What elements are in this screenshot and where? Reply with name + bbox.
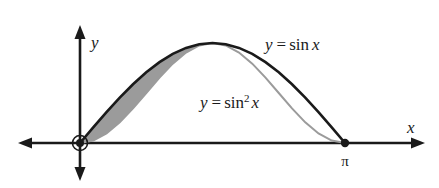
svg-text:y=sinx: y=sinx bbox=[263, 35, 320, 54]
sin2-label-arg: x bbox=[250, 93, 259, 112]
sin2-label-exponent: 2 bbox=[244, 92, 250, 104]
sin2-label-equals: = bbox=[212, 93, 222, 112]
curve-label-sin-x: y=sinx bbox=[263, 35, 320, 54]
x-tick-label-pi: π bbox=[341, 153, 349, 169]
sin-label-fn: sin bbox=[289, 35, 309, 54]
y-axis-label: y bbox=[89, 33, 99, 52]
sin-label-arg: x bbox=[311, 35, 320, 54]
sin-label-equals: = bbox=[277, 35, 287, 54]
sin2-label-y: y bbox=[198, 93, 208, 112]
figure-container: y x π y=sinx y=sin2x bbox=[0, 0, 439, 188]
y-axis-top-arrowhead bbox=[75, 25, 86, 39]
pi-point-marker bbox=[341, 139, 349, 147]
sin-label-y: y bbox=[263, 35, 273, 54]
sin2-label-fn: sin bbox=[224, 93, 244, 112]
math-figure: y x π y=sinx y=sin2x bbox=[0, 0, 439, 188]
y-axis bbox=[75, 25, 86, 181]
x-axis-label: x bbox=[406, 118, 415, 137]
curve-label-sin-squared-x: y=sin2x bbox=[198, 92, 259, 112]
x-axis-left-arrowhead bbox=[18, 138, 32, 149]
y-axis-bottom-arrowhead bbox=[75, 167, 86, 181]
x-axis-right-arrowhead bbox=[411, 138, 425, 149]
svg-text:y=sin2x: y=sin2x bbox=[198, 92, 259, 112]
